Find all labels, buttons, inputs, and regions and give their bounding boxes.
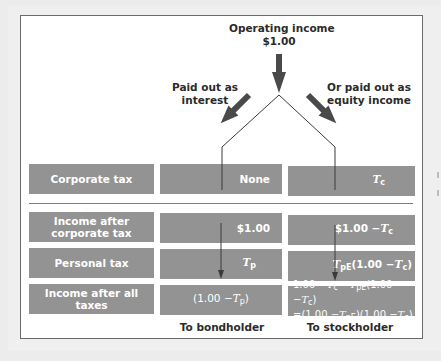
edge-artifact bbox=[437, 190, 439, 196]
flow-lines bbox=[0, 0, 441, 361]
edge-artifact bbox=[437, 172, 439, 178]
bond-flow-arrowhead-icon bbox=[218, 270, 224, 279]
stock-flow-arrowhead-icon bbox=[332, 272, 338, 281]
down-arrow-icon bbox=[272, 54, 286, 93]
branch-lines bbox=[221, 95, 335, 274]
